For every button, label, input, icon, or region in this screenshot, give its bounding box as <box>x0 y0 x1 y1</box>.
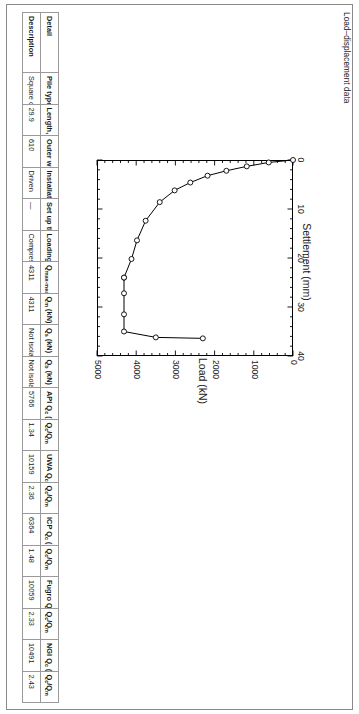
detail-label: Qc/Qm <box>41 482 59 514</box>
detail-value: 10059 <box>23 577 41 609</box>
detail-value: 4311 <box>23 262 41 294</box>
detail-value: 6364 <box>23 514 41 546</box>
detail-value: 2.43 <box>23 671 41 703</box>
detail-value: 610 <box>23 136 41 168</box>
y-tick-label: 0 <box>289 360 298 365</box>
data-point <box>188 180 193 185</box>
figure-caption: Load–displacement data <box>342 12 351 103</box>
series-lines <box>124 160 293 338</box>
x-tick-label: 0 <box>296 146 305 174</box>
detail-label: Qb (kN) <box>41 356 59 388</box>
detail-value: 1.34 <box>23 419 41 451</box>
data-point <box>122 291 127 296</box>
y-axis-title: Load (kN) <box>197 358 209 404</box>
series-path <box>124 278 203 339</box>
detail-value: Driven <box>23 167 41 199</box>
x-tick-label: 20 <box>296 244 305 272</box>
figure-sheet: Load–displacement data Settlement (mm) L… <box>0 0 359 714</box>
data-series-layer <box>97 160 293 356</box>
detail-table: DetailPile type/materialLength, L (m)Out… <box>22 12 59 703</box>
data-point <box>157 200 162 205</box>
data-point <box>153 335 158 340</box>
detail-label: Length, L (m) <box>41 104 59 136</box>
detail-value: 10159 <box>23 451 41 483</box>
detail-value: 29.9 <box>23 104 41 136</box>
detail-label: Qc/Qm <box>41 419 59 451</box>
y-tick-label: 3000 <box>172 360 181 379</box>
y-tick-label: 1000 <box>250 360 259 379</box>
detail-label: Qm (kN) <box>41 293 59 325</box>
data-point <box>134 238 139 243</box>
detail-value: Not isolated <box>23 325 41 357</box>
detail-value: 2.36 <box>23 482 41 514</box>
detail-value: Not isolated <box>23 356 41 388</box>
detail-table-wrapper: DetailPile type/materialLength, L (m)Out… <box>11 12 59 702</box>
data-point <box>244 164 249 169</box>
x-tick-label: 40 <box>296 342 305 370</box>
data-point <box>266 160 271 165</box>
rotated-content: Load–displacement data Settlement (mm) L… <box>0 0 359 714</box>
detail-value: Square concrete piles <box>23 73 41 105</box>
detail-label: Set up time, days <box>41 199 59 231</box>
header-detail: Detail <box>41 13 59 73</box>
table-header-row: DetailPile type/materialLength, L (m)Out… <box>41 13 59 703</box>
detail-value: — <box>23 199 41 231</box>
x-tick-label: 10 <box>296 195 305 223</box>
data-point <box>205 173 210 178</box>
axis-ticks <box>97 160 293 356</box>
detail-label: Outer width, B (mm) <box>41 136 59 168</box>
detail-label: Fugro Qc (kN) <box>41 577 59 609</box>
detail-label: Qmax-measured (kN) <box>41 262 59 294</box>
table-value-row: DescriptionSquare concrete piles29.9610D… <box>23 13 41 703</box>
detail-label: Installation method <box>41 167 59 199</box>
detail-label: API Qc (kN) <box>41 388 59 420</box>
detail-label: ICP Qc (kN) <box>41 514 59 546</box>
y-tick-label: 5000 <box>93 360 102 379</box>
detail-label: Pile type/material <box>41 73 59 105</box>
detail-label: Loading mode <box>41 230 59 262</box>
detail-value: 1.48 <box>23 545 41 577</box>
detail-value: 10491 <box>23 640 41 672</box>
detail-label: Qc/Qm <box>41 671 59 703</box>
data-point <box>200 336 205 341</box>
y-tick-label: 4000 <box>133 360 142 379</box>
detail-label: UWA Qc (kN) <box>41 451 59 483</box>
x-tick-label: 30 <box>296 293 305 321</box>
detail-label: NGI Qc (kN) <box>41 640 59 672</box>
data-point <box>122 275 127 280</box>
y-tick-label: 2000 <box>211 360 220 379</box>
detail-label: Qc/Qm <box>41 545 59 577</box>
data-point <box>129 256 134 261</box>
detail-value: 2.33 <box>23 608 41 640</box>
detail-value: Compression <box>23 230 41 262</box>
data-point <box>143 218 148 223</box>
data-point <box>291 158 296 163</box>
series-markers <box>122 158 296 341</box>
detail-value: 4311 <box>23 293 41 325</box>
header-description: Description <box>23 13 41 73</box>
load-settlement-chart: Settlement (mm) Load (kN) 010203040 0100… <box>67 112 315 380</box>
data-point <box>172 188 177 193</box>
data-point <box>224 168 229 173</box>
data-point <box>122 329 127 334</box>
detail-label: Qs (kN) <box>41 325 59 357</box>
detail-value: 5766 <box>23 388 41 420</box>
detail-label: Qc/Qm <box>41 608 59 640</box>
data-point <box>122 312 127 317</box>
